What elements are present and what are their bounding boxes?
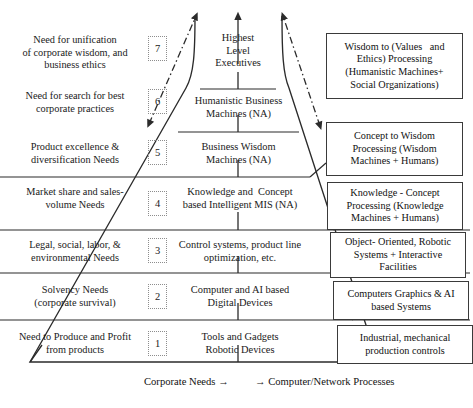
- process-box-level-4-text: Knowledge - ConceptProcessing (Knowledge…: [331, 187, 459, 225]
- band-label-level-6: Humanistic BusinessMachines (NA): [176, 95, 301, 120]
- need-label-level-2: Solvency Needs(corporate survival): [2, 284, 148, 309]
- process-box-level-2-text: Computers Graphics & AIbased Systems: [337, 288, 465, 313]
- band-label-level-3: Control systems, product lineoptimizatio…: [160, 239, 320, 264]
- need-label-level-7: Need for unificationof corporate wisdom,…: [2, 34, 148, 72]
- footer-caption-corporate-needs: Corporate Needs →: [144, 376, 229, 387]
- process-box-level-1[interactable]: Industrial, mechanicalproduction control…: [337, 325, 473, 364]
- need-label-level-1: Need to Produce and Profitfrom products: [2, 331, 148, 356]
- band-label-level-1: Tools and GadgetsRobotic Devices: [166, 331, 314, 356]
- level-chip-6[interactable]: 6: [148, 89, 167, 114]
- level-chip-4[interactable]: 4: [148, 191, 167, 216]
- need-label-level-4: Market share and sales-volume Needs: [2, 186, 148, 211]
- need-label-level-5: Product excellence &diversification Need…: [2, 141, 148, 166]
- band-label-level-2: Computer and AI basedDigital Devices: [166, 284, 314, 309]
- level-chip-7[interactable]: 7: [148, 36, 167, 61]
- process-box-level-1-text: Industrial, mechanicalproduction control…: [341, 332, 469, 357]
- need-label-level-6: Need for search for bestcorporate practi…: [2, 90, 148, 115]
- band-label-level-7: HighestLevelExecutives: [198, 32, 278, 70]
- process-box-level-3-text: Object- Oriented, RoboticSystems + Inter…: [334, 236, 462, 274]
- process-box-level-2[interactable]: Computers Graphics & AIbased Systems: [333, 281, 469, 320]
- need-label-level-3: Legal, social, labor, &environmental Nee…: [2, 239, 148, 264]
- level-chip-1[interactable]: 1: [148, 331, 167, 356]
- level-chip-2[interactable]: 2: [148, 284, 167, 309]
- band-label-level-5: Business WisdomMachines (NA): [176, 141, 301, 166]
- process-box-level-7-text: Wisdom to (Values andEthics) Processing(…: [330, 41, 459, 92]
- level-chip-5[interactable]: 5: [148, 140, 167, 165]
- process-box-level-5-text: Concept to WisdomProcessing (WisdomMachi…: [330, 130, 459, 168]
- process-box-level-3[interactable]: Object- Oriented, RoboticSystems + Inter…: [330, 232, 466, 278]
- footer-caption-computer-processes: → Computer/Network Processes: [255, 376, 394, 387]
- band-label-level-4: Knowledge and Conceptbased Intelligent M…: [166, 186, 314, 211]
- process-box-level-7[interactable]: Wisdom to (Values andEthics) Processing(…: [326, 33, 463, 99]
- connector-level-5: [310, 163, 326, 177]
- process-box-level-4[interactable]: Knowledge - ConceptProcessing (Knowledge…: [327, 182, 463, 230]
- process-box-level-5[interactable]: Concept to WisdomProcessing (WisdomMachi…: [326, 122, 463, 176]
